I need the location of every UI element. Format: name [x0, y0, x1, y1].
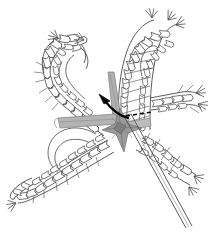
illustration-canvas: Braided cord junction with working stran… — [0, 0, 209, 235]
braid-diagram-svg — [0, 0, 209, 235]
